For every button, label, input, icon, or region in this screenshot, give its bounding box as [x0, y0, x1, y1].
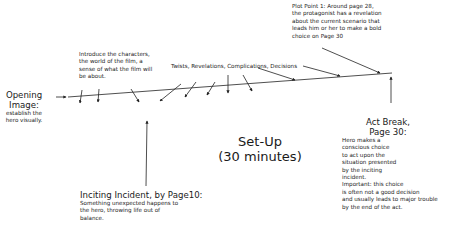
inciting-text-1: Something unexpected happens to — [80, 200, 240, 207]
introduce-text-1: Introduce the characters, — [79, 51, 179, 58]
act-break-text: incident. — [342, 174, 456, 181]
inciting-text-2: the hero, throwing life out of — [80, 207, 240, 214]
twists-arrow-1 — [185, 82, 196, 97]
introduce-arrow-1 — [80, 90, 82, 103]
plot-point-text-1: Plot Point 1: Around page 28, — [292, 3, 422, 10]
setup-block: Set-Up (30 minutes) — [200, 134, 320, 164]
opening-image-desc-2: hero visually. — [2, 117, 46, 124]
inciting-text-3: balance. — [80, 215, 240, 222]
act-break-text: is often not a good decision — [342, 189, 456, 196]
opening-image-title-2: Image: — [2, 100, 46, 110]
act-break-title: Act Break, — [342, 117, 434, 127]
twists-arrow-2 — [207, 82, 215, 95]
act-break-text: and usually leads to major trouble — [342, 196, 456, 203]
introduce-text-3: sense of what the film will — [79, 66, 179, 73]
introduce-arrow-3 — [131, 89, 139, 102]
twists-label: Twists, Revelations, Complications, Deci… — [171, 63, 297, 70]
plot-point-arrow — [322, 48, 380, 73]
introduce-arrow-4 — [160, 84, 181, 101]
opening-image-block: Opening Image: establish the hero visual… — [2, 90, 46, 125]
introduce-text-4: be about. — [79, 73, 179, 80]
act-break-text: by the inciting — [342, 167, 456, 174]
inciting-block: Inciting Incident, by Page10: Something … — [80, 190, 240, 222]
opening-image-title: Opening — [2, 90, 46, 100]
act-break-block: Act Break, Page 30: Hero makes a conscio… — [342, 117, 456, 211]
twists-arrow-4 — [243, 75, 252, 91]
act-break-text: to act upon the — [342, 152, 456, 159]
plot-point-text-2: the protagonist has a revelation — [292, 10, 422, 17]
act-break-text: conscious choice — [342, 144, 456, 151]
introduce-text-2: the world of the film, a — [79, 58, 179, 65]
opening-image-desc: establish the — [2, 110, 46, 117]
plot-point-text-3: about the current scenario that — [292, 18, 422, 25]
act-break-text: situation presented — [342, 159, 456, 166]
inciting-title: Inciting Incident, by Page10: — [80, 190, 240, 200]
plot-point-block: Plot Point 1: Around page 28, the protag… — [292, 3, 422, 40]
introduce-block: Introduce the characters, the world of t… — [79, 51, 179, 81]
setup-subtitle: (30 minutes) — [200, 149, 320, 164]
act-break-text: Hero makes a — [342, 137, 456, 144]
setup-title: Set-Up — [200, 134, 320, 149]
act-break-text: by the end of the act. — [342, 204, 456, 211]
inciting-line — [146, 121, 147, 186]
introduce-arrow-2 — [98, 89, 99, 102]
plot-point-text-5: choice on Page 30 — [292, 33, 422, 40]
plot-point-text-4: leads him or her to make a bold — [292, 25, 422, 32]
act-break-text: Important: this choice — [342, 181, 456, 188]
act-break-title-2: Page 30: — [342, 127, 434, 137]
twists-arrow-6 — [303, 66, 340, 76]
